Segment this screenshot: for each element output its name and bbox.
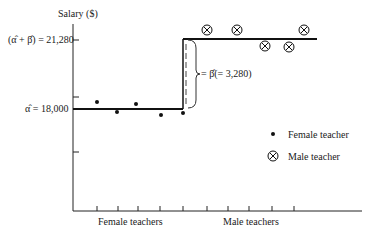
ytick-label-top: (α̂ + β̂) = 21,280 (8, 35, 74, 45)
x-ticks (97, 206, 294, 211)
legend-male-label: Male teacher (288, 152, 340, 162)
beta-brace (188, 40, 200, 108)
beta-annotation: = β̂(= 3,280) (201, 69, 252, 79)
x-group-male: Male teachers (223, 217, 279, 227)
y-ticks (73, 40, 79, 152)
x-group-female: Female teachers (98, 217, 163, 227)
y-axis-label: Salary ($) (58, 9, 98, 19)
ytick-label-base: α̂ = 18,000 (25, 104, 68, 114)
legend-circled-x-icon (268, 151, 278, 161)
legend-dot-icon (271, 132, 275, 136)
legend-female-label: Female teacher (288, 130, 349, 140)
